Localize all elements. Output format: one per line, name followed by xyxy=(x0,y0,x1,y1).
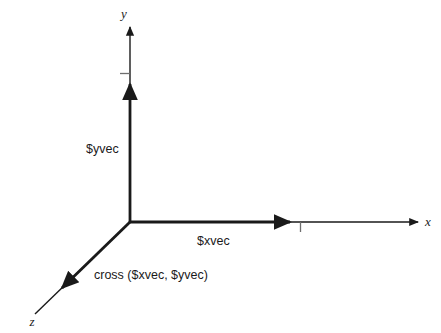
axes-diagram: y x z $yvec $xvec cross ($xvec, $yvec) xyxy=(0,0,441,333)
axis-ticks xyxy=(120,74,301,233)
axis-lines xyxy=(35,27,418,314)
cross-product-label: cross ($xvec, $yvec) xyxy=(94,268,208,282)
vectors xyxy=(62,84,290,288)
diagram-canvas: y x z $yvec $xvec cross ($xvec, $yvec) xyxy=(0,0,441,333)
yvec-label: $yvec xyxy=(86,142,119,156)
y-axis-label: y xyxy=(119,6,127,21)
z-axis-label: z xyxy=(28,314,34,329)
x-axis-label: x xyxy=(424,214,431,229)
xvec-label: $xvec xyxy=(197,234,230,248)
